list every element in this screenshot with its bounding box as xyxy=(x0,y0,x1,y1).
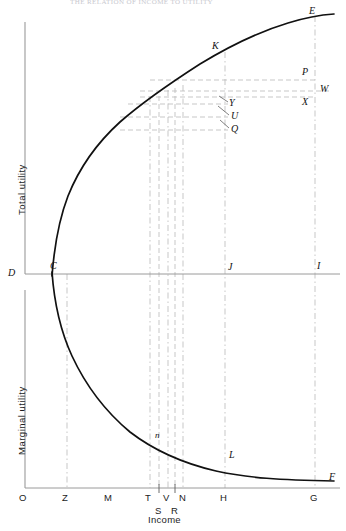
level-arrows xyxy=(218,96,229,128)
axes xyxy=(25,22,340,488)
point-label-P: P xyxy=(302,67,308,77)
point-label-J: J xyxy=(228,262,232,272)
point-label-D: D xyxy=(8,268,15,278)
total-utility-curve xyxy=(52,14,334,276)
point-label-K: K xyxy=(212,41,219,51)
y-axis-lower-title: Marginal utility xyxy=(16,386,27,455)
utility-income-figure: THE RELATION OF INCOME TO UTILITY xyxy=(0,0,346,531)
arrow-Q xyxy=(220,120,229,128)
vertical-guides xyxy=(67,16,315,488)
point-label-C: C xyxy=(50,261,57,271)
y-axis-upper-title: Total utility xyxy=(16,164,27,215)
point-label-X: X xyxy=(302,97,308,107)
x-tick-label-V: V xyxy=(163,492,170,503)
marginal-utility-curve xyxy=(52,272,334,481)
x-tick-label-Z: Z xyxy=(62,492,68,503)
horizontal-guides xyxy=(120,80,332,130)
point-label-F: F xyxy=(329,472,335,482)
x-tick-label-M: M xyxy=(104,492,112,503)
point-label-Y: Y xyxy=(229,98,235,108)
x-tick-label-O: O xyxy=(19,492,27,503)
x-tick-label-N: N xyxy=(179,492,186,503)
x-tick-label-R: R xyxy=(171,505,178,516)
point-label-U: U xyxy=(231,111,238,121)
x-tick-label-G: G xyxy=(310,492,318,503)
point-label-Q: Q xyxy=(231,124,238,134)
x-tick-label-T: T xyxy=(145,492,151,503)
point-label-E: E xyxy=(309,6,315,16)
point-label-I: I xyxy=(317,261,320,271)
point-label-L: L xyxy=(229,450,235,460)
x-tick-label-S: S xyxy=(155,505,162,516)
arrow-U xyxy=(218,106,229,115)
point-label-W: W xyxy=(320,84,328,94)
x-tick-label-H: H xyxy=(220,492,227,503)
point-label-n: n xyxy=(155,431,160,440)
